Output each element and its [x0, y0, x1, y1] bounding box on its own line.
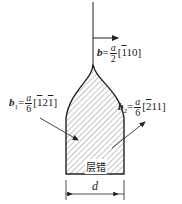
partial-b2-label: b2=a6[211] [118, 97, 166, 118]
stacking-fault-label: 层错 [85, 159, 107, 174]
stacking-fault-region [66, 64, 124, 174]
partial-b1-label: b1=a6[121] [9, 93, 57, 114]
width-label: d [90, 180, 100, 192]
burgers-vector-label: b=a2[110] [97, 43, 141, 64]
dislocation-diagram: b=a2[110] b1=a6[121] b2=a6[211] 层错 d [0, 0, 182, 204]
